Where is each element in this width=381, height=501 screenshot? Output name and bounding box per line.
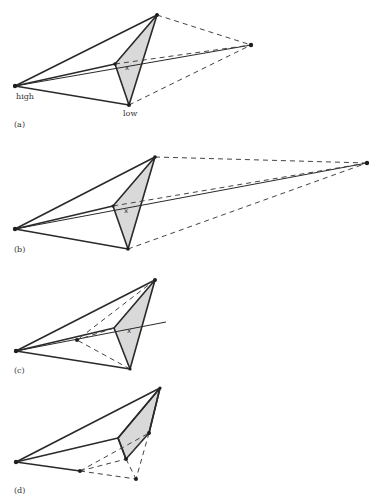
vertex-low — [134, 477, 138, 481]
vertex-low — [128, 367, 131, 370]
vertex-high — [13, 84, 17, 88]
label-low: low — [123, 109, 137, 118]
panel-label-b: (b) — [14, 245, 25, 254]
edge — [15, 229, 128, 249]
edge — [16, 438, 118, 462]
expanded-point — [365, 161, 369, 165]
dashed-edge — [80, 471, 136, 479]
panel-c: x (c) — [14, 278, 166, 375]
vertex — [153, 278, 157, 282]
expansion-line — [15, 163, 367, 229]
panel-d: (d) — [14, 386, 162, 495]
shaded-face — [114, 280, 155, 369]
shaded-face — [115, 15, 157, 105]
centroid-mark: x — [124, 207, 128, 215]
contracted-vertex — [78, 469, 82, 473]
vertex-high — [14, 349, 18, 353]
vertex-low — [126, 247, 130, 251]
panel-label-c: (c) — [14, 366, 25, 375]
contracted-vertex — [147, 431, 151, 435]
panel-label-a: (a) — [14, 120, 25, 129]
edge — [15, 206, 113, 229]
vertex-low — [127, 103, 131, 107]
dashed-edge — [80, 459, 126, 471]
panel-b: x (b) — [13, 155, 369, 254]
vertex-high — [14, 460, 18, 464]
contraction-line — [16, 322, 166, 351]
vertex — [111, 204, 114, 207]
shaded-face — [113, 157, 155, 249]
vertex — [155, 13, 159, 17]
vertex-high — [13, 227, 17, 231]
dashed-edge — [126, 459, 136, 479]
centroid-mark: x — [127, 327, 131, 335]
reflected-point — [249, 43, 253, 47]
dashed-edge — [157, 15, 251, 45]
centroid-mark: x — [125, 64, 129, 72]
edge — [16, 462, 80, 471]
contracted-point — [75, 338, 79, 342]
label-high: high — [16, 92, 34, 101]
simplex-diagram: x high low (a) x (b) x (c) — [0, 0, 381, 501]
dashed-edge — [128, 163, 367, 249]
dashed-edge — [155, 157, 367, 163]
panel-label-d: (d) — [14, 486, 25, 495]
contracted-vertex — [124, 457, 128, 461]
vertex — [113, 62, 117, 66]
edge — [16, 328, 114, 351]
vertex — [153, 155, 157, 159]
vertex — [158, 386, 161, 389]
edge — [15, 64, 115, 86]
panel-a: x high low (a) — [13, 13, 253, 129]
